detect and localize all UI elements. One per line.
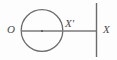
geometry-figure: O X′ X [0,0,117,60]
figure-canvas [0,0,117,60]
label-x-axis: X [103,24,110,35]
label-x-prime: X′ [65,18,74,29]
label-origin: O [7,24,15,35]
circle-center-dot [41,30,43,32]
